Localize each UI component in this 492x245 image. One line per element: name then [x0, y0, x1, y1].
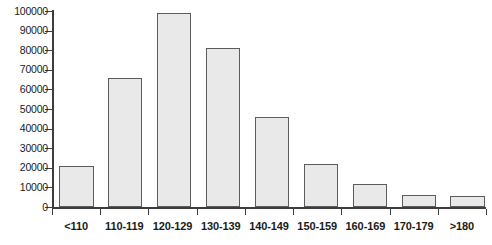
- x-axis-tick: [100, 209, 101, 215]
- y-axis-tick-label-text: 10000: [4, 182, 48, 193]
- x-axis-labels: <110110-119120-129130-139140-149150-1591…: [52, 220, 486, 232]
- y-axis-tick-label: 0: [0, 202, 48, 213]
- x-axis-tick: [341, 209, 342, 215]
- bar: [304, 164, 338, 207]
- bar-slot: [52, 11, 101, 207]
- x-axis-category-label: <110: [52, 220, 100, 232]
- x-axis-category-label: 150-159: [293, 220, 341, 232]
- x-axis-category-label: >180: [438, 220, 486, 232]
- x-axis-tick: [148, 209, 149, 215]
- x-axis-tick: [52, 209, 53, 215]
- bar-slot: [345, 11, 394, 207]
- x-axis-tick: [293, 209, 294, 215]
- bar: [108, 78, 142, 207]
- y-axis-tick-label-text: 70000: [4, 64, 48, 75]
- y-axis-tick-label-text: 40000: [4, 123, 48, 134]
- x-axis-tick: [245, 209, 246, 215]
- x-axis-tick: [390, 209, 391, 215]
- y-axis-tick-label-text: 80000: [4, 45, 48, 56]
- bar: [206, 48, 240, 207]
- bar: [157, 13, 191, 207]
- bar-slot: [199, 11, 248, 207]
- bar-slot: [248, 11, 297, 207]
- y-axis-tick-label: 100000: [0, 6, 48, 17]
- bar-slot: [150, 11, 199, 207]
- x-axis-category-label: 120-129: [148, 220, 196, 232]
- y-axis-tick-label: 60000: [0, 84, 48, 95]
- y-axis-tick-label-text: 20000: [4, 162, 48, 173]
- y-axis-tick-label: 10000: [0, 182, 48, 193]
- bar: [255, 117, 289, 207]
- bar-series: [52, 11, 492, 207]
- y-axis-tick-label: 80000: [0, 45, 48, 56]
- x-axis-category-label: 170-179: [390, 220, 438, 232]
- y-axis-tick-label-text: 30000: [4, 143, 48, 154]
- bar-chart: 0100002000030000400005000060000700008000…: [0, 0, 492, 245]
- x-axis-category-label: 130-139: [197, 220, 245, 232]
- bar-slot: [101, 11, 150, 207]
- y-axis-tick-label-text: 0: [4, 202, 48, 213]
- y-axis-tick-label-text: 60000: [4, 84, 48, 95]
- x-axis-tick: [197, 209, 198, 215]
- x-axis-category-label: 160-169: [341, 220, 389, 232]
- x-axis-tick: [486, 209, 487, 215]
- bar-slot: [394, 11, 443, 207]
- bar-slot: [443, 11, 492, 207]
- x-axis-ticks: [52, 209, 486, 215]
- x-axis-tick: [438, 209, 439, 215]
- y-axis-tick-label: 30000: [0, 143, 48, 154]
- bar-slot: [296, 11, 345, 207]
- x-axis-category-label: 110-119: [100, 220, 148, 232]
- x-axis-category-label: 140-149: [245, 220, 293, 232]
- y-axis-tick-label-text: 50000: [4, 104, 48, 115]
- y-axis-tick-label: 70000: [0, 64, 48, 75]
- y-axis-tick-label: 20000: [0, 162, 48, 173]
- bar: [402, 195, 436, 207]
- y-axis-tick-label: 40000: [0, 123, 48, 134]
- y-axis-tick-label-text: 90000: [4, 25, 48, 36]
- plot-area: [52, 11, 492, 207]
- y-axis-tick-label: 90000: [0, 25, 48, 36]
- y-axis-tick-label-text: 100000: [4, 6, 48, 17]
- bar: [450, 196, 484, 207]
- bar: [353, 184, 387, 207]
- y-axis-tick-label: 50000: [0, 104, 48, 115]
- bar: [59, 166, 93, 207]
